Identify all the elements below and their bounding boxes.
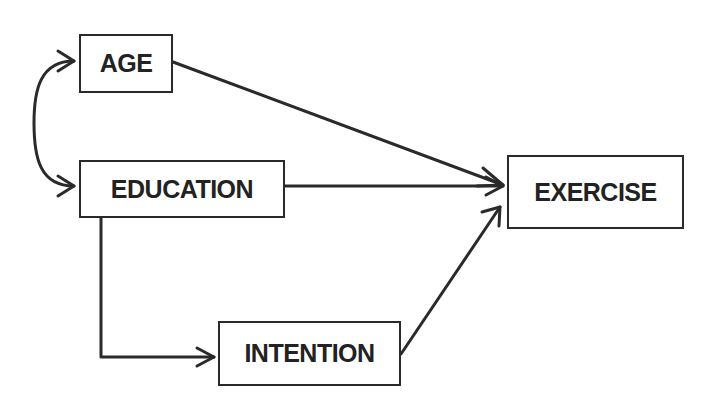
node-intention-label: INTENTION [244, 339, 374, 368]
node-education-label: EDUCATION [111, 175, 253, 204]
node-exercise: EXERCISE [507, 155, 684, 229]
edge-age-education-correlation [34, 61, 74, 186]
node-intention: INTENTION [218, 321, 401, 386]
node-exercise-label: EXERCISE [534, 178, 656, 207]
node-education: EDUCATION [79, 160, 285, 218]
edge-education-intention [101, 218, 214, 357]
node-age-label: AGE [100, 49, 153, 78]
node-age: AGE [79, 34, 173, 93]
edge-intention-exercise [401, 207, 500, 354]
